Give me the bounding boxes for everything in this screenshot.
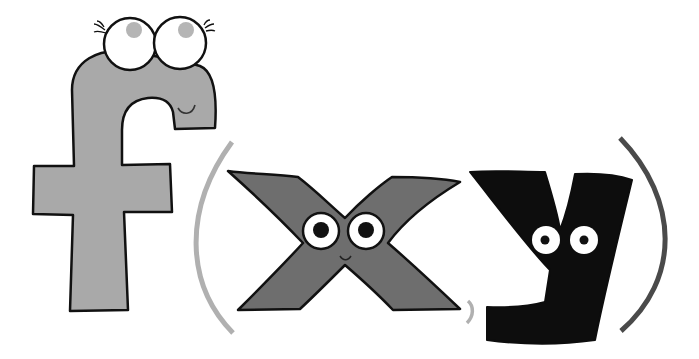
close-paren [620, 138, 665, 331]
letter-f [33, 17, 216, 311]
letter-x [228, 171, 460, 310]
comma [467, 301, 472, 323]
fxy-illustration [0, 0, 699, 359]
letter-y [470, 171, 632, 344]
